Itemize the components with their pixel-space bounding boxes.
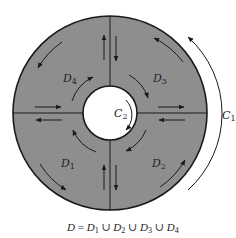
caption-part: =	[75, 221, 87, 233]
caption-part: D	[166, 221, 175, 233]
annulus-diagram: D4 D3 D1 D2 C2 C1 D = D1 ∪ D2 ∪ D3 ∪ D4	[0, 0, 236, 238]
label-c1: C1	[222, 109, 236, 123]
caption-part: 4	[175, 226, 179, 235]
caption-part: D	[139, 221, 148, 233]
caption-part: ∪	[125, 221, 140, 233]
caption-part: D	[112, 221, 121, 233]
caption-part: ∪	[152, 221, 167, 233]
caption-part: D	[86, 221, 95, 233]
caption: D = D1 ∪ D2 ∪ D3 ∪ D4	[66, 221, 179, 235]
inner-hole	[83, 86, 137, 140]
caption-part: D	[66, 221, 75, 233]
caption-part: ∪	[99, 221, 114, 233]
